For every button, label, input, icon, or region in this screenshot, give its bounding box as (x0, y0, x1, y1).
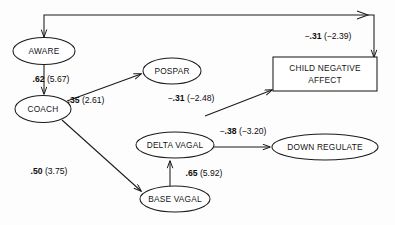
node-label-pospar: POSPAR (154, 66, 189, 76)
coef-value-coach-pospar: .35 (68, 95, 80, 105)
node-delta-vagal[interactable]: DELTA VAGAL (136, 132, 214, 158)
edge-coefficient-coach-pospar: .35(2.61) (68, 95, 105, 105)
node-label-delta-vagal: DELTA VAGAL (147, 140, 204, 150)
node-coach[interactable]: COACH (15, 96, 71, 123)
coef-value-aware-coach: .62 (33, 74, 45, 84)
edge-coefficient-pospar-cna: −.31(−2.48) (168, 93, 215, 103)
edge-coefficient-aware-coach: .62(5.67) (33, 74, 70, 84)
edge-coefficient-base-delta: .65(5.92) (186, 168, 223, 178)
coef-t-coach-base: (3.75) (45, 166, 68, 176)
coef-t-base-delta: (5.92) (200, 168, 223, 178)
node-aware[interactable]: AWARE (13, 38, 75, 65)
node-label-child-negative-affect-line1: CHILD NEGATIVE (289, 63, 361, 73)
edge-line-coach-base (62, 120, 141, 191)
node-label-aware: AWARE (29, 46, 60, 56)
node-label-coach: COACH (28, 104, 59, 114)
edge-coefficient-coach-base: .50(3.75) (31, 166, 68, 176)
node-base-vagal[interactable]: BASE VAGAL (140, 186, 210, 212)
coef-value-base-delta: .65 (186, 168, 198, 178)
node-down-regulate[interactable]: DOWN REGULATE (272, 134, 378, 160)
coef-value-aware-cna: .31 (310, 31, 322, 41)
coef-t-aware-coach: (5.67) (47, 74, 70, 84)
edge-pospar-child-negative-affect (205, 90, 272, 116)
coef-t-pospar-cna: (−2.48) (187, 93, 215, 103)
edge-line-pospar-cna (205, 90, 272, 116)
coef-t-aware-cna: (−2.39) (324, 31, 352, 41)
coef-value-coach-base: .50 (31, 166, 43, 176)
coef-t-coach-pospar: (2.61) (82, 95, 105, 105)
node-label-child-negative-affect-line2: AFFECT (308, 75, 341, 85)
node-label-down-regulate: DOWN REGULATE (287, 142, 363, 152)
node-label-base-vagal: BASE VAGAL (148, 194, 202, 204)
node-pospar[interactable]: POSPAR (143, 58, 201, 84)
path-diagram-canvas: AWARE COACH POSPAR CHILD NEGATIVE AFFECT… (0, 0, 395, 225)
edge-coefficient-delta-down: −.38(−3.20) (220, 126, 267, 136)
coef-value-delta-down: .38 (225, 126, 237, 136)
coef-t-delta-down: (−3.20) (239, 126, 267, 136)
coef-value-pospar-cna: .31 (173, 93, 185, 103)
node-child-negative-affect[interactable]: CHILD NEGATIVE AFFECT (273, 57, 377, 91)
path-diagram-svg: AWARE COACH POSPAR CHILD NEGATIVE AFFECT… (0, 0, 395, 225)
edge-coefficient-aware-cna: −.31(−2.39) (305, 31, 352, 41)
edge-coach-base-vagal (62, 120, 141, 191)
